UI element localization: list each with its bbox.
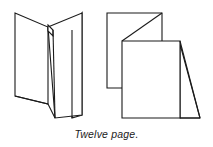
twelve-page-fold-diagram <box>0 0 213 147</box>
left-centre-panel <box>48 13 82 118</box>
figure-container: Twelve page. <box>0 0 213 147</box>
right-fold-view <box>107 13 200 118</box>
right-front-panel <box>122 41 180 118</box>
figure-caption: Twelve page. <box>0 128 213 141</box>
left-fold-view <box>15 13 82 118</box>
left-front-panel <box>15 13 48 104</box>
